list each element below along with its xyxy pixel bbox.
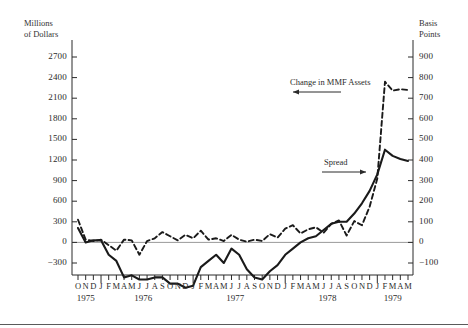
x-month-label: M — [402, 281, 414, 291]
bottom-rule — [0, 324, 468, 325]
plot-canvas — [0, 0, 468, 328]
left-tick-label: 1200 — [25, 154, 67, 164]
right-tick-label: 300 — [419, 175, 463, 185]
left-tick-label: 900 — [25, 175, 67, 185]
left-tick-label: 600 — [25, 195, 67, 205]
spread-arrow-head — [360, 169, 366, 174]
x-year-label: 1976 — [123, 293, 163, 303]
chart-figure: Millions of Dollars Basis Points Change … — [0, 0, 468, 328]
series-spread — [78, 150, 408, 288]
x-year-label: 1978 — [307, 293, 347, 303]
right-tick-label: 100 — [419, 216, 463, 226]
left-tick-label: −300 — [25, 257, 67, 267]
annotation-arrows — [293, 89, 366, 174]
x-year-label: 1979 — [373, 293, 413, 303]
right-tick-label: 800 — [419, 72, 463, 82]
x-year-label: 1977 — [215, 293, 255, 303]
axes-group — [72, 40, 413, 283]
series-group — [78, 82, 408, 288]
series-change-in-mmf-assets — [78, 82, 408, 255]
right-tick-label: 500 — [419, 133, 463, 143]
right-tick-label: 200 — [419, 195, 463, 205]
x-year-label: 1975 — [66, 293, 106, 303]
right-tick-label: 0 — [419, 236, 463, 246]
right-tick-label: 600 — [419, 113, 463, 123]
left-tick-label: 2100 — [25, 92, 67, 102]
left-tick-label: 1800 — [25, 113, 67, 123]
right-tick-label: −100 — [419, 257, 463, 267]
right-tick-label: 400 — [419, 154, 463, 164]
left-tick-label: 2700 — [25, 51, 67, 61]
mmf-arrow-head — [293, 89, 299, 94]
right-tick-label: 700 — [419, 92, 463, 102]
left-tick-label: 300 — [25, 216, 67, 226]
right-tick-label: 900 — [419, 51, 463, 61]
left-tick-label: 1500 — [25, 133, 67, 143]
left-tick-label: 2400 — [25, 72, 67, 82]
left-tick-label: 0 — [25, 236, 67, 246]
